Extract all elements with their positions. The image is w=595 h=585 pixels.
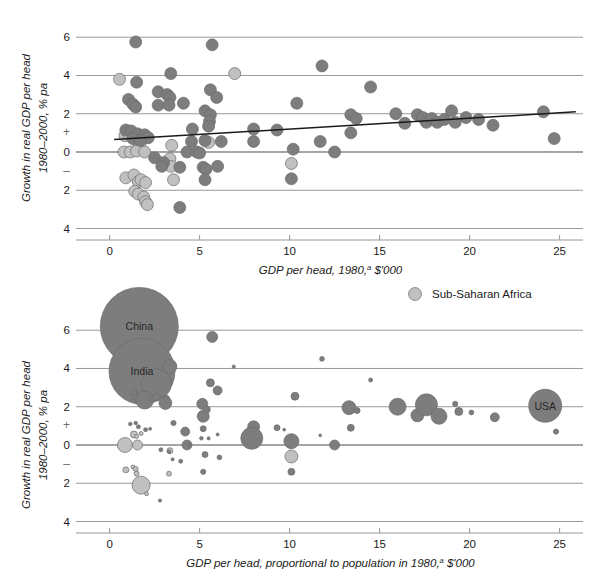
legend-label: Sub-Saharan Africa [432,288,532,300]
series-other-countries [120,36,560,213]
data-point [171,420,176,425]
data-point [179,459,183,463]
data-point [117,438,132,453]
x-tick-label: 25 [553,245,566,257]
y-tick-label: 2 [64,184,70,196]
x-tick-label: 5 [196,538,202,550]
data-point [202,452,208,458]
data-point [206,379,214,387]
data-point [285,157,297,169]
data-point [156,160,168,172]
y-tick-label: 6 [64,31,70,43]
data-point [241,427,263,449]
data-point [207,437,210,440]
data-point [123,467,129,473]
y-tick-label: 2 [64,477,70,489]
data-point [145,492,149,496]
data-point [284,434,299,449]
data-point [200,163,212,175]
data-point [139,432,143,436]
data-point [490,413,499,422]
data-point [330,440,340,450]
data-point [369,378,373,382]
bubble-label-india: India [131,365,154,377]
scatter-plot-svg: 642024+–Growth in real GDP per head1980–… [0,0,595,285]
data-point [288,468,295,475]
data-point [159,448,163,452]
data-point [537,106,549,118]
data-point [212,160,224,172]
data-point [248,135,260,147]
data-point [314,135,326,147]
data-point [114,73,126,85]
data-point [149,427,152,430]
y-axis-title-line1: Growth in real GDP per head [20,53,32,201]
data-point [287,143,299,155]
data-point [319,434,322,437]
x-tick-label: 0 [106,538,112,550]
data-point [144,428,148,432]
data-point [177,97,189,109]
data-point [129,422,133,426]
y-axis-positive-sign: + [63,125,70,139]
data-point [399,117,411,129]
x-tick-label: 15 [373,538,386,550]
y-axis-title-line2: 1980–2000, % pa [37,390,49,480]
x-tick-label: 5 [196,245,202,257]
data-point [186,123,198,135]
y-tick-label: 4 [64,223,71,235]
data-point [133,440,143,450]
data-point [200,437,204,441]
data-point [207,331,218,342]
data-point [131,76,143,88]
data-point [285,173,297,185]
data-point [199,135,211,147]
x-tick-label: 10 [283,538,296,550]
data-point [215,135,227,147]
data-point [134,421,138,425]
data-point [291,392,299,400]
y-tick-label: 0 [64,439,70,451]
data-point [181,427,190,436]
data-point [345,127,357,139]
chart-panel-bottom: 642024+–Growth in real GDP per head1980–… [0,285,595,585]
data-point [132,476,150,494]
series-other-countries [100,287,561,502]
data-point [248,123,260,135]
data-point [213,386,222,395]
legend-marker-icon [409,288,422,301]
data-point [217,455,222,460]
x-tick-label: 20 [463,245,476,257]
data-point [188,443,191,446]
data-point [140,177,152,189]
data-point [150,397,155,402]
data-point [229,68,241,80]
data-point [165,68,177,80]
data-point [136,425,140,429]
data-point [390,108,402,120]
y-tick-label: 4 [64,362,71,374]
y-axis-positive-sign: + [63,418,70,432]
x-tick-label: 10 [283,245,296,257]
data-point [329,146,341,158]
data-point [291,97,303,109]
data-point [553,429,558,434]
data-point [453,401,458,406]
data-point [487,119,499,131]
data-point [203,120,215,132]
y-tick-label: 2 [64,108,70,120]
data-point [171,458,174,461]
data-point [350,113,362,125]
data-point [199,174,211,186]
data-point [130,36,142,48]
x-axis-title: GDP per head, 1980,a $'000 [259,263,403,276]
data-point [216,433,219,436]
data-point [152,99,164,111]
data-point [158,499,161,502]
data-point [206,39,218,51]
data-point [316,60,328,72]
data-point [194,147,206,159]
data-point [130,101,142,113]
data-point [365,81,377,93]
data-point [455,408,463,416]
